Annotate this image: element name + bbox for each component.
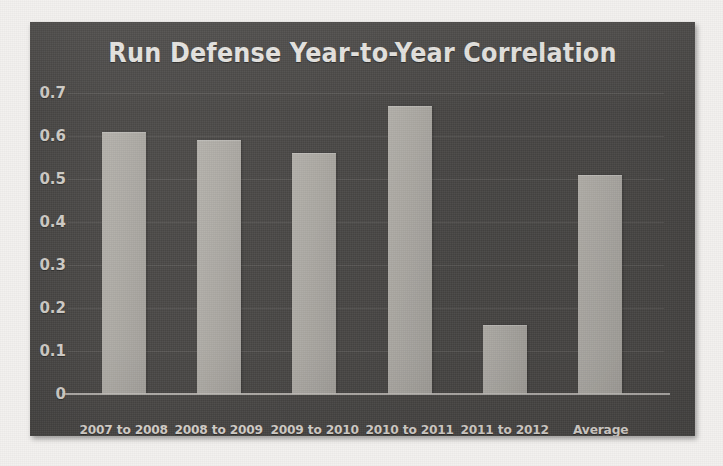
bar-chart-figure: Run Defense Year-to-Year Correlation 00.… [30,22,695,436]
y-axis-tick-label: 0.5 [39,170,66,188]
x-axis-tick-label: 2008 to 2009 [174,422,264,436]
y-axis-tick-label: 0.7 [39,84,66,102]
y-axis-tick-label: 0.2 [39,299,66,317]
y-axis-tick-label: 0 [56,385,66,403]
x-axis-tick-label: 2007 to 2008 [79,422,169,436]
x-axis-tick-label: 2011 to 2012 [460,422,550,436]
x-axis-tick-label: Average [556,422,646,436]
screenshot-page: Run Defense Year-to-Year Correlation 00.… [0,0,723,466]
y-axis-tick-label: 0.4 [39,213,66,231]
x-axis-tick-label: 2009 to 2010 [270,422,360,436]
x-axis-tick-label: 2010 to 2011 [365,422,455,436]
chart-title: Run Defense Year-to-Year Correlation [57,38,669,68]
y-axis-tick-label: 0.3 [39,256,66,274]
x-axis-tick-labels: 2007 to 20082008 to 20092009 to 20102010… [76,422,648,436]
y-axis-tick-label: 0.1 [39,342,66,360]
y-axis-tick-labels: 00.10.20.30.40.50.60.7 [76,93,648,394]
plot-area: 00.10.20.30.40.50.60.7 [76,93,648,394]
y-axis-tick-label: 0.6 [39,127,66,145]
